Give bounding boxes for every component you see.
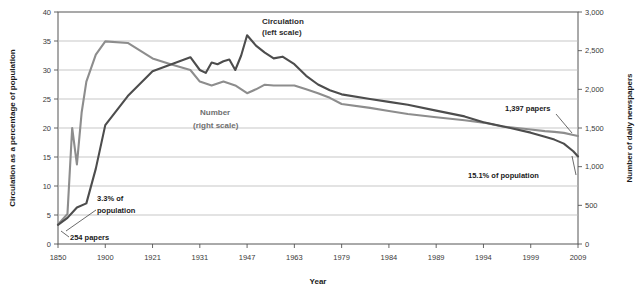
left-tick-label: 30	[43, 66, 51, 75]
x-tick-label: 1850	[50, 253, 67, 262]
left-tick-label: 15	[43, 153, 51, 162]
left-tick-label: 10	[43, 182, 51, 191]
left-tick-label: 5	[47, 211, 51, 220]
right-axis-title: Number of daily newspapers	[625, 73, 634, 182]
x-tick-label: 1963	[286, 253, 303, 262]
number-series-label-line1: Number	[200, 108, 230, 117]
start-papers-label: 254 papers	[70, 233, 109, 242]
chart-svg: 0510152025303540 05001,0001,5002,0002,50…	[0, 0, 643, 303]
right-tick-label: 500	[585, 201, 598, 210]
x-axis-title: Year	[310, 277, 327, 286]
right-tick-label: 3,000	[585, 8, 604, 17]
circulation-series-label-line2: (left scale)	[262, 28, 302, 37]
start-pct-label-line2: population	[97, 206, 136, 215]
right-tick-label: 0	[585, 240, 589, 249]
left-tick-label: 40	[43, 8, 51, 17]
x-tick-label: 1999	[522, 253, 539, 262]
x-tick-label: 1979	[333, 253, 350, 262]
right-tick-label: 2,500	[585, 46, 604, 55]
left-axis-title: Circulation as a percentage of populatio…	[8, 49, 17, 206]
x-tick-label: 1921	[144, 253, 161, 262]
x-tick-label: 1900	[97, 253, 114, 262]
circulation-series-label-line1: Circulation	[262, 17, 304, 26]
left-tick-label: 0	[47, 240, 51, 249]
newspaper-circulation-chart: 0510152025303540 05001,0001,5002,0002,50…	[0, 0, 643, 303]
right-tick-label: 2,000	[585, 85, 604, 94]
x-tick-label: 1984	[381, 253, 398, 262]
left-tick-label: 35	[43, 37, 51, 46]
x-tick-label: 1947	[239, 253, 256, 262]
right-tick-label: 1,500	[585, 124, 604, 133]
x-tick-label: 1931	[191, 253, 208, 262]
start-pct-label-line1: 3.3% of	[97, 194, 124, 203]
left-tick-label: 25	[43, 95, 51, 104]
left-tick-label: 20	[43, 124, 51, 133]
x-tick-label: 1989	[428, 253, 445, 262]
end-pct-label: 15.1% of population	[468, 171, 539, 180]
x-tick-label: 2009	[570, 253, 587, 262]
number-series-label-line2: (right scale)	[193, 121, 239, 130]
right-tick-label: 1,000	[585, 162, 604, 171]
x-tick-label: 1994	[475, 253, 492, 262]
end-papers-label: 1,397 papers	[505, 104, 550, 113]
